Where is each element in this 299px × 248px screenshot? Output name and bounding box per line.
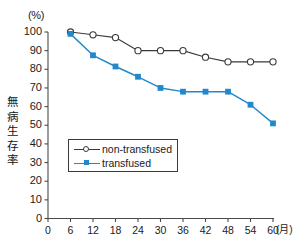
data-point (90, 32, 96, 38)
chart-legend: non-transfused transfused (68, 139, 178, 172)
data-point (135, 74, 141, 80)
data-point (158, 85, 164, 91)
disease-free-survival-chart: (%) 無病生存率 0102030405060708090100 0612182… (0, 0, 299, 248)
legend-item-transfused: transfused (74, 156, 151, 170)
data-point (225, 89, 231, 95)
legend-label-non-transfused: non-transfused (102, 143, 172, 155)
data-point (90, 52, 96, 58)
data-point (113, 64, 119, 70)
legend-marker-filled-square-icon (74, 157, 100, 169)
data-point (225, 59, 231, 65)
legend-marker-open-circle-icon (74, 143, 100, 155)
series-transfused (68, 31, 276, 126)
data-point (180, 48, 186, 54)
data-point (112, 34, 118, 40)
data-point (247, 59, 253, 65)
data-point (157, 48, 163, 54)
data-point (68, 31, 74, 37)
data-point (270, 59, 276, 65)
data-point (270, 120, 276, 126)
data-point (135, 48, 141, 54)
data-point (202, 54, 208, 60)
data-point (248, 102, 254, 108)
axis-ticks (45, 32, 274, 222)
axis-lines (48, 32, 274, 219)
plot-area (0, 0, 299, 248)
data-point (180, 89, 186, 95)
data-point (203, 89, 209, 95)
legend-item-non-transfused: non-transfused (74, 142, 172, 156)
legend-label-transfused: transfused (102, 157, 151, 169)
series-non-transfused (67, 29, 276, 65)
